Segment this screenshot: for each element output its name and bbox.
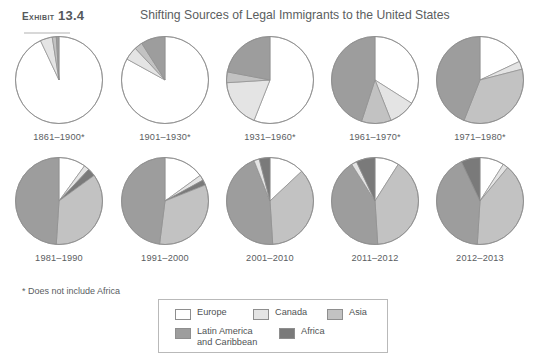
pie-svg <box>434 155 526 247</box>
pie-period-label: 1971–1980* <box>427 132 533 142</box>
pie-period-label: 1931–1960* <box>217 132 323 142</box>
pie-slice-latin_america <box>16 158 59 245</box>
pie-graphic <box>434 34 526 126</box>
page-title: Shifting Sources of Legal Immigrants to … <box>140 8 450 22</box>
pie-period-label: 1981–1990 <box>6 253 112 263</box>
legend-label: Asia <box>349 307 367 318</box>
legend-row-primary: EuropeCanadaAsia <box>159 307 387 323</box>
pie-graphic <box>224 155 316 247</box>
pie-period-label: 2001–2010 <box>217 253 323 263</box>
pie-chart-1901-1930-: 1901–1930* <box>112 34 218 142</box>
pie-graphic <box>329 155 421 247</box>
legend-label: Africa <box>301 326 325 337</box>
exhibit-header: Exhibit 13.4 Shifting Sources of Legal I… <box>0 6 534 30</box>
exhibit-number: 13.4 <box>58 8 84 23</box>
pie-graphic <box>434 155 526 247</box>
exhibit-label: Exhibit 13.4 <box>22 8 84 23</box>
pie-svg <box>434 34 526 126</box>
legend-swatch-canada <box>253 309 269 320</box>
pie-svg <box>13 155 105 247</box>
legend-item-asia: Asia <box>327 307 367 320</box>
pie-svg <box>119 155 211 247</box>
pie-chart-1961-1970-: 1961–1970* <box>322 34 428 142</box>
pie-chart-1931-1960-: 1931–1960* <box>217 34 323 142</box>
pie-chart-2012-2013: 2012–2013 <box>427 155 533 263</box>
legend-label: Latin America and Caribbean <box>197 326 257 348</box>
legend-item-canada: Canada <box>253 307 307 320</box>
exhibit-page: Exhibit 13.4 Shifting Sources of Legal I… <box>0 0 534 363</box>
pie-row: 1861–1900*1901–1930*1931–1960*1961–1970*… <box>0 34 534 155</box>
legend-row-secondary: Latin America and CaribbeanAfrica <box>159 326 387 342</box>
pie-chart-grid: 1861–1900*1901–1930*1931–1960*1961–1970*… <box>0 34 534 276</box>
pie-chart-2001-2010: 2001–2010 <box>217 155 323 263</box>
legend-label: Canada <box>275 307 307 318</box>
pie-graphic <box>119 155 211 247</box>
pie-chart-2011-2012: 2011–2012 <box>322 155 428 263</box>
pie-row: 1981–19901991–20002001–20102011–20122012… <box>0 155 534 276</box>
pie-chart-1981-1990: 1981–1990 <box>6 155 112 263</box>
legend-item-europe: Europe <box>175 307 227 320</box>
pie-svg <box>224 155 316 247</box>
legend: EuropeCanadaAsia Latin America and Carib… <box>158 299 388 353</box>
pie-svg <box>13 34 105 126</box>
legend-label: Europe <box>197 307 227 318</box>
legend-swatch-africa <box>279 328 295 339</box>
pie-graphic <box>13 155 105 247</box>
pie-chart-1991-2000: 1991–2000 <box>112 155 218 263</box>
pie-period-label: 2012–2013 <box>427 253 533 263</box>
pie-period-label: 1901–1930* <box>112 132 218 142</box>
legend-item-africa: Africa <box>279 326 325 339</box>
pie-slice-latin_america <box>121 158 165 245</box>
exhibit-word: Exhibit <box>22 11 54 22</box>
pie-svg <box>119 34 211 126</box>
pie-period-label: 1991–2000 <box>112 253 218 263</box>
pie-chart-1971-1980-: 1971–1980* <box>427 34 533 142</box>
pie-svg <box>224 34 316 126</box>
footnote: * Does not include Africa <box>22 286 120 296</box>
legend-swatch-asia <box>327 309 343 320</box>
legend-swatch-europe <box>175 309 191 320</box>
pie-graphic <box>224 34 316 126</box>
pie-graphic <box>13 34 105 126</box>
pie-graphic <box>119 34 211 126</box>
pie-svg <box>329 155 421 247</box>
pie-period-label: 1861–1900* <box>6 132 112 142</box>
pie-svg <box>329 34 421 126</box>
legend-swatch-latin-america <box>175 328 191 339</box>
pie-graphic <box>329 34 421 126</box>
legend-item-latin-america: Latin America and Caribbean <box>175 326 257 348</box>
pie-period-label: 2011–2012 <box>322 253 428 263</box>
pie-period-label: 1961–1970* <box>322 132 428 142</box>
pie-chart-1861-1900-: 1861–1900* <box>6 34 112 142</box>
